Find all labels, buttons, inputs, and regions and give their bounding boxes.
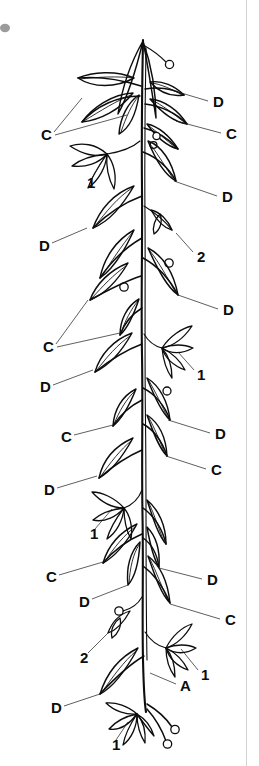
figure-background (0, 0, 259, 766)
label-c-3: C (41, 126, 52, 143)
label-d-26: D (51, 699, 62, 716)
bud-right-1 (153, 132, 160, 139)
scan-speck (0, 24, 10, 32)
label-1-18: 1 (90, 525, 98, 542)
label-2-23: 2 (80, 649, 88, 666)
label-c-2: C (226, 125, 237, 142)
label-1-24: 1 (201, 666, 209, 683)
label-d-6: D (222, 188, 233, 205)
terminal-bud-1 (171, 725, 179, 733)
label-d-1: D (213, 93, 224, 110)
label-c-19: C (46, 568, 57, 585)
label-d-13: D (40, 378, 51, 395)
label-1-5: 1 (87, 174, 95, 191)
terminal-bud-2 (163, 740, 171, 748)
label-d-9: D (223, 301, 234, 318)
label-c-16: C (211, 461, 222, 478)
line-drawing-canvas: DCC1DD2DC1DDCCD1CDDC21AD1 (0, 0, 259, 766)
label-d-7: D (39, 237, 50, 254)
bud-mid-2 (163, 387, 171, 395)
apex-bud (165, 60, 173, 68)
bud-mid-1 (165, 259, 173, 267)
label-d-17: D (44, 481, 55, 498)
label-1-12: 1 (197, 366, 205, 383)
label-2-8: 2 (197, 248, 205, 265)
label-c-22: C (225, 611, 236, 628)
label-c-10: C (43, 338, 54, 355)
label-d-14: D (215, 425, 226, 442)
label-c-15: C (61, 428, 72, 445)
label-a-25: A (180, 677, 191, 694)
botanical-figure: DCC1DD2DC1DDCCD1CDDC21AD1 (0, 0, 259, 766)
label-d-21: D (79, 593, 90, 610)
label-1-27: 1 (112, 736, 120, 753)
label-d-20: D (207, 571, 218, 588)
